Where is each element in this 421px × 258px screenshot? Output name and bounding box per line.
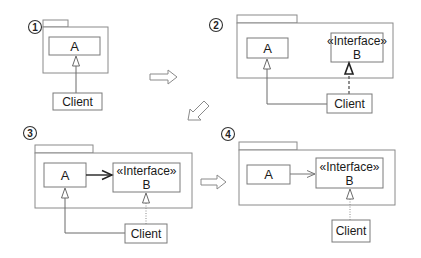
- svg-text:B: B: [142, 178, 150, 192]
- step-number-badge: 4: [222, 128, 235, 141]
- svg-text:4: 4: [225, 129, 231, 140]
- class-a-box: A: [247, 38, 288, 58]
- class-a-box: A: [44, 163, 86, 187]
- svg-text:B: B: [353, 48, 361, 62]
- svg-text:1: 1: [32, 22, 38, 33]
- step-number-badge: 1: [29, 21, 42, 34]
- svg-text:2: 2: [213, 20, 219, 31]
- client-box: Client: [53, 93, 102, 110]
- svg-text:A: A: [61, 168, 70, 183]
- transition-arrow-down-left-icon: [188, 101, 209, 120]
- svg-text:A: A: [263, 41, 272, 56]
- step-number-badge: 3: [24, 127, 37, 140]
- refactoring-diagram: 1 A Client 2: [0, 0, 421, 258]
- step-3: 3 A «Interface» B Client: [24, 127, 193, 244]
- svg-text:B: B: [345, 174, 353, 188]
- svg-text:Client: Client: [336, 224, 367, 238]
- interface-b-box: «Interface» B: [327, 33, 387, 62]
- interface-b-box: «Interface» B: [113, 163, 180, 192]
- client-box: Client: [327, 94, 372, 113]
- svg-text:Client: Client: [131, 227, 162, 241]
- class-a-box: A: [247, 165, 290, 184]
- step-4: 4 A «Interface» B Client: [222, 128, 396, 243]
- svg-text:A: A: [264, 167, 273, 182]
- svg-text:Client: Client: [334, 97, 365, 111]
- client-box: Client: [332, 220, 370, 242]
- generalization-client-to-a: [73, 56, 80, 93]
- client-box: Client: [125, 224, 167, 243]
- svg-text:3: 3: [27, 128, 33, 139]
- svg-text:A: A: [70, 39, 79, 54]
- transition-arrow-right-icon: [201, 175, 226, 189]
- svg-text:Client: Client: [62, 95, 93, 109]
- interface-b-box: «Interface» B: [316, 158, 383, 188]
- step-1: 1 A Client: [29, 20, 109, 110]
- svg-text:«Interface»: «Interface»: [116, 164, 176, 178]
- class-a-box: A: [49, 37, 100, 55]
- svg-text:«Interface»: «Interface»: [319, 160, 379, 174]
- step-2: 2 A «Interface» B Client: [210, 15, 394, 113]
- step-number-badge: 2: [210, 19, 223, 32]
- svg-text:«Interface»: «Interface»: [327, 34, 387, 48]
- transition-arrow-right-icon: [150, 70, 177, 84]
